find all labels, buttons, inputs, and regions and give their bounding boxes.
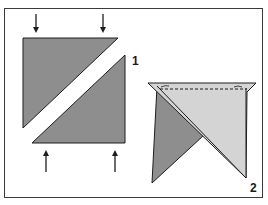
figure-1-label: 1 — [132, 55, 139, 67]
diagram-canvas — [0, 0, 268, 205]
figure-1 — [23, 14, 125, 172]
figure-2-label: 2 — [250, 182, 257, 194]
figure-2 — [148, 83, 256, 183]
